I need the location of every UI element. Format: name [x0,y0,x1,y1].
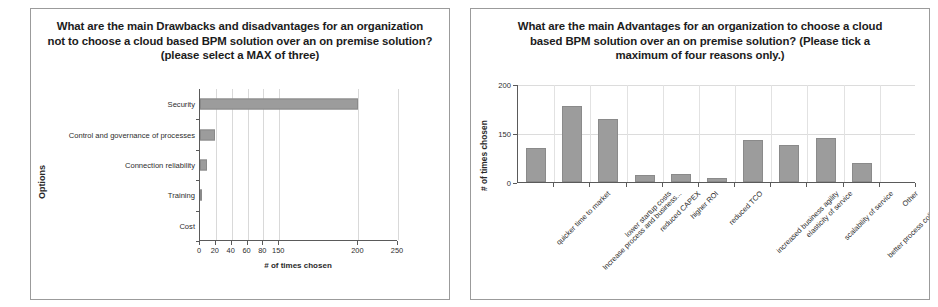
screenshot-root: What are the main Drawbacks and disadvan… [0,0,938,307]
drawbacks-y-tick [196,119,200,120]
drawbacks-x-tick [247,241,248,245]
drawbacks-x-tick [199,241,200,245]
advantages-bar-chart: # of times chosen 0150200 quicker time t… [471,79,930,300]
advantages-bar [816,138,836,182]
drawbacks-x-tick-label: 200 [351,246,363,255]
drawbacks-x-tick-label: 40 [227,246,235,255]
advantages-category-label: Other [900,189,919,208]
drawbacks-plot-area [199,89,397,241]
drawbacks-bar [200,190,202,201]
drawbacks-y-tick [196,180,200,181]
drawbacks-category-label: Connection reliability [125,161,195,170]
drawbacks-y-tick [196,150,200,151]
advantages-bar [671,174,691,182]
drawbacks-x-tick [215,241,216,245]
advantages-category-label: Increase process and business... [601,189,684,272]
drawbacks-bar [200,129,215,140]
advantages-category-label: reduced TCO [727,189,765,227]
drawbacks-panel-title: What are the main Drawbacks and disadvan… [31,9,449,63]
drawbacks-x-tick [231,241,232,245]
advantages-y-ticks: 0150200 [471,85,517,183]
advantages-bar [562,106,582,182]
advantages-bar [779,145,799,182]
drawbacks-x-tick [262,241,263,245]
drawbacks-title-line-3: (please select a MAX of three) [45,48,435,63]
advantages-title-line-3: maximum of four reasons only.) [487,48,913,63]
advantages-category-label: quicker time to market [554,189,612,247]
drawbacks-y-tick [196,211,200,212]
drawbacks-x-tick [357,241,358,245]
advantages-bar [598,119,618,182]
drawbacks-x-tick-label: 150 [272,246,284,255]
drawbacks-category-label: Cost [179,221,195,230]
drawbacks-x-axis-title: # of times chosen [199,261,397,270]
advantages-bar [526,148,546,182]
advantages-panel-title: What are the main Advantages for an orga… [471,9,929,63]
drawbacks-category-label: Training [168,191,195,200]
drawbacks-x-tick [278,241,279,245]
advantages-bar [852,163,872,182]
drawbacks-x-tick-label: 20 [211,246,219,255]
advantages-category-labels: quicker time to marketIncrease process a… [517,187,930,297]
drawbacks-x-tick-label: 60 [242,246,250,255]
drawbacks-x-tick-label: 80 [258,246,266,255]
advantages-category-label: increased business agility [775,189,841,255]
drawbacks-bar [200,160,207,171]
drawbacks-x-tick [397,241,398,245]
advantages-plot-area [517,85,915,183]
drawbacks-category-label: Security [168,100,195,109]
drawbacks-title-line-2: not to choose a cloud based BPM solution… [45,34,435,49]
advantages-bar [635,175,655,182]
drawbacks-category-labels: SecurityControl and governance of proces… [45,89,195,241]
drawbacks-bar-chart: Options SecurityControl and governance o… [31,81,450,299]
drawbacks-bar [200,99,358,110]
advantages-bar [707,178,727,182]
drawbacks-x-ticks: 020406080150200250 [199,241,397,263]
drawbacks-title-line-1: What are the main Drawbacks and disadvan… [45,19,435,34]
advantages-chart-panel: What are the main Advantages for an orga… [470,8,930,300]
advantages-y-tick-label: 0 [507,179,511,188]
advantages-title-line-1: What are the main Advantages for an orga… [487,19,913,34]
advantages-y-tick-label: 200 [498,81,511,90]
advantages-bar [743,140,763,182]
drawbacks-gridlines [200,89,397,240]
drawbacks-x-tick-label: 250 [391,246,403,255]
drawbacks-category-label: Control and governance of processes [69,130,195,139]
advantages-title-line-2: based BPM solution over an on premise so… [487,34,913,49]
drawbacks-x-tick-label: 0 [197,246,201,255]
drawbacks-chart-panel: What are the main Drawbacks and disadvan… [30,8,450,300]
advantages-y-tick-label: 150 [498,130,511,139]
